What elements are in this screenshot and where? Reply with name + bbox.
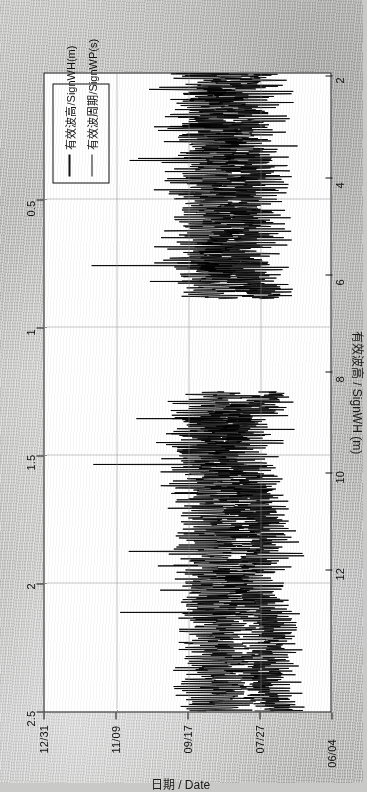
- x-axis-title: 日期 / Date: [150, 775, 209, 792]
- gridline-date: [188, 73, 189, 711]
- value2-tick-mark: [325, 274, 332, 275]
- value2-tick-mark: [325, 177, 332, 178]
- value2-tick-label: 8: [333, 376, 345, 382]
- date-tick-mark: [331, 712, 332, 719]
- value2-tick-mark: [325, 371, 332, 372]
- gridline-date: [260, 73, 261, 711]
- legend-item: 有效波高/SignWH(m): [58, 90, 80, 176]
- legend-label: 有效波周期/SignWP(s): [83, 38, 99, 149]
- gridline-date: [116, 73, 117, 711]
- date-tick-label: 12/31: [37, 724, 49, 753]
- gridline-value: [44, 326, 330, 327]
- legend-label: 有效波高/SignWH(m): [61, 45, 77, 149]
- value2-tick-label: 12: [333, 567, 345, 580]
- value-tick-label: 2: [24, 583, 36, 589]
- value2-tick-label: 10: [333, 470, 345, 483]
- value-tick-mark: [36, 711, 43, 712]
- date-tick-mark: [187, 712, 188, 719]
- value-tick-mark: [36, 455, 43, 456]
- date-tick-mark: [115, 712, 116, 719]
- value2-tick-label: 4: [333, 182, 345, 188]
- date-tick-mark: [43, 712, 44, 719]
- value-tick-mark: [36, 583, 43, 584]
- value-tick-label: 1: [24, 329, 36, 335]
- value-tick-label: 0.5: [24, 200, 36, 216]
- value-tick-mark: [36, 199, 43, 200]
- gridline-value: [44, 454, 330, 455]
- legend-line-swatch-signwp: [91, 154, 92, 176]
- gridline-value: [44, 198, 330, 199]
- date-tick-mark: [259, 712, 260, 719]
- value2-tick-mark: [325, 75, 332, 76]
- y-axis-title: 有效波高 / SignWH (m): [350, 330, 367, 453]
- date-tick-label: 06/04: [325, 739, 337, 768]
- value-tick-mark: [36, 327, 43, 328]
- date-tick-label: 07/27: [253, 724, 265, 753]
- value-tick-label: 1.5: [24, 454, 36, 470]
- value2-tick-label: 6: [333, 279, 345, 285]
- value-tick-label: 2.5: [24, 710, 36, 726]
- date-tick-label: 09/17: [181, 724, 193, 753]
- legend: 有效波高/SignWH(m) 有效波周期/SignWP(s): [52, 83, 109, 183]
- value2-tick-label: 2: [333, 77, 345, 83]
- legend-item: 有效波周期/SignWP(s): [80, 90, 102, 176]
- gridline-value: [44, 582, 330, 583]
- value2-tick-mark: [325, 472, 332, 473]
- value2-tick-mark: [325, 569, 332, 570]
- legend-line-swatch-signwh: [68, 154, 70, 176]
- date-tick-label: 11/09: [109, 725, 121, 753]
